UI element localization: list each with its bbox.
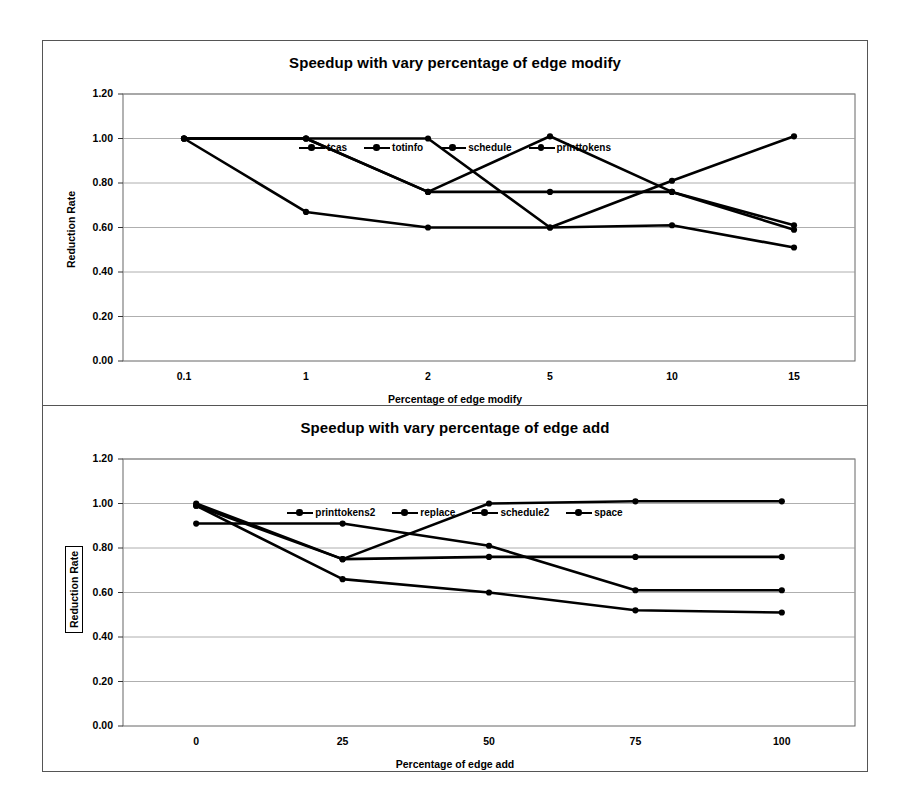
legend-item-schedule2: schedule2 [472,507,549,518]
legend-item-space: space [566,507,622,518]
legend-marker-circle-icon [472,508,498,517]
legend-marker-circle-icon [440,143,466,152]
data-point-schedule2 [779,554,785,560]
legend-marker-circle-icon [529,143,555,152]
data-point-space [486,589,492,595]
legend-marker-circle-icon [392,508,418,517]
data-point-tcas [425,224,431,230]
x-axis-tick-label: 75 [605,735,665,747]
legend-item-replace: replace [392,507,455,518]
data-point-printtokens2 [486,500,492,506]
data-point-tcas [669,222,675,228]
data-point-printtokens [303,135,309,141]
chart-panel-edge-modify: Speedup with vary percentage of edge mod… [43,41,867,406]
y-axis-tick-label: 0.80 [75,176,113,188]
legend-label: schedule [468,142,511,153]
data-point-schedule [791,222,797,228]
data-point-schedule [669,189,675,195]
legend-marker-circle-icon [287,508,313,517]
plot-area-edge-add [43,406,867,771]
data-point-space [632,607,638,613]
legend-item-printtokens2: printtokens2 [287,507,375,518]
data-point-printtokens [669,178,675,184]
data-point-printtokens2 [779,498,785,504]
legend-marker-circle-icon [299,143,325,152]
x-axis-tick-label: 1 [276,370,336,382]
legend-label: space [594,507,622,518]
data-point-replace [632,587,638,593]
plot-area-edge-modify [43,41,867,406]
x-axis-tick-label: 15 [764,370,824,382]
data-point-space [340,576,346,582]
y-axis-tick-label: 0.40 [75,265,113,277]
legend-label: totinfo [392,142,423,153]
data-point-totinfo [547,133,553,139]
legend-label: printtokens2 [315,507,375,518]
data-point-schedule2 [486,554,492,560]
legend-edge-modify: tcastotinfoscheduleprinttokens [43,142,867,153]
y-axis-title: Reduction Rate [65,545,83,632]
chart-panel-edge-add: Speedup with vary percentage of edge add… [43,406,867,771]
figure-page: Speedup with vary percentage of edge mod… [0,0,910,809]
y-axis-tick-label: 1.00 [75,132,113,144]
data-point-printtokens2 [632,498,638,504]
legend-item-printtokens: printtokens [529,142,611,153]
figure-outer-frame: Speedup with vary percentage of edge mod… [42,40,868,772]
y-axis-tick-label: 0.20 [75,310,113,322]
data-point-schedule [425,189,431,195]
y-axis-tick-label: 1.00 [75,497,113,509]
x-axis-title: Percentage of edge modify [43,393,867,405]
legend-item-schedule: schedule [440,142,511,153]
x-axis-tick-label: 5 [520,370,580,382]
x-axis-tick-label: 100 [752,735,812,747]
y-axis-tick-label: 0.00 [75,354,113,366]
data-point-tcas [791,244,797,250]
y-axis-tick-label: 0.60 [75,221,113,233]
legend-edge-add: printtokens2replaceschedule2space [43,507,867,518]
legend-marker-circle-icon [364,143,390,152]
y-axis-tick-label: 0.20 [75,675,113,687]
data-point-space [779,609,785,615]
y-axis-tick-label: 1.20 [75,452,113,464]
legend-label: tcas [327,142,347,153]
legend-item-totinfo: totinfo [364,142,423,153]
x-axis-title: Percentage of edge add [43,758,867,770]
x-axis-tick-label: 10 [642,370,702,382]
data-point-tcas [303,209,309,215]
data-point-replace [486,543,492,549]
y-axis-title: Reduction Rate [65,190,77,267]
data-point-printtokens [425,135,431,141]
data-point-schedule [547,189,553,195]
data-point-printtokens [547,224,553,230]
x-axis-tick-label: 25 [313,735,373,747]
data-point-replace [340,520,346,526]
legend-label: printtokens [557,142,611,153]
data-point-replace [193,520,199,526]
data-point-replace [779,587,785,593]
data-point-schedule2 [632,554,638,560]
x-axis-tick-label: 0.1 [154,370,214,382]
x-axis-tick-label: 0 [166,735,226,747]
data-point-printtokens [181,135,187,141]
x-axis-tick-label: 2 [398,370,458,382]
legend-marker-circle-icon [566,508,592,517]
legend-label: schedule2 [500,507,549,518]
x-axis-tick-label: 50 [459,735,519,747]
data-point-schedule2 [340,556,346,562]
y-axis-tick-label: 1.20 [75,87,113,99]
data-point-printtokens [791,133,797,139]
y-axis-tick-label: 0.00 [75,719,113,731]
legend-label: replace [420,507,455,518]
legend-item-tcas: tcas [299,142,347,153]
